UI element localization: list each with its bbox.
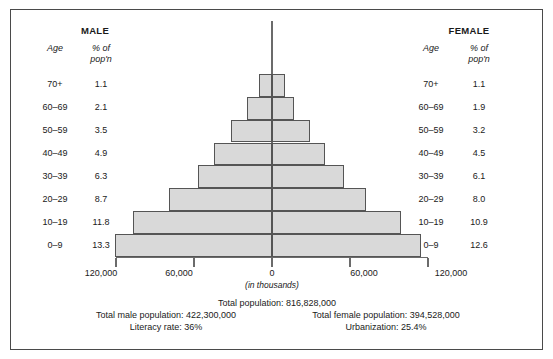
bar-female-60-69 bbox=[272, 97, 294, 120]
footer-total-female-population: Total female population: 394,528,000 bbox=[276, 310, 496, 320]
bar-female-0-9 bbox=[272, 234, 421, 257]
bar-female-30-39 bbox=[272, 165, 344, 188]
axis-tick-1 bbox=[193, 258, 194, 267]
bar-female-10-19 bbox=[272, 211, 401, 234]
footer-urbanization: Urbanization: 25.4% bbox=[276, 322, 496, 332]
bar-male-70+ bbox=[259, 74, 272, 97]
axis-tick-0 bbox=[115, 258, 116, 267]
bar-male-40-49 bbox=[214, 143, 272, 166]
axis-tick-4 bbox=[427, 258, 428, 267]
axis-tick-label-right: 60,000 bbox=[329, 268, 399, 278]
bar-male-50-59 bbox=[231, 120, 272, 143]
bar-female-40-49 bbox=[272, 143, 325, 166]
bar-female-70+ bbox=[272, 74, 285, 97]
bar-male-20-29 bbox=[169, 188, 272, 211]
bar-male-30-39 bbox=[198, 165, 272, 188]
bar-male-60-69 bbox=[247, 97, 272, 120]
axis-tick-label-far-left: 120,000 bbox=[66, 268, 136, 278]
footer-literacy-rate: Literacy rate: 36% bbox=[56, 322, 276, 332]
footer-total-population: Total population: 816,828,000 bbox=[167, 298, 387, 308]
axis-tick-label-left: 60,000 bbox=[144, 268, 214, 278]
axis-units-label: (in thousands) bbox=[232, 280, 312, 290]
axis-tick-3 bbox=[349, 258, 350, 267]
bar-female-50-59 bbox=[272, 120, 310, 143]
axis-tick-2 bbox=[271, 258, 272, 267]
bar-male-10-19 bbox=[133, 211, 272, 234]
footer-total-male-population: Total male population: 422,300,000 bbox=[56, 310, 276, 320]
bar-female-20-29 bbox=[272, 188, 366, 211]
bar-male-0-9 bbox=[115, 234, 272, 257]
axis-tick-label-center: 0 bbox=[237, 268, 307, 278]
axis-tick-label-far-right: 120,000 bbox=[416, 268, 486, 278]
population-pyramid-figure: MALE Age % of pop'n FEMALE Age % of pop'… bbox=[10, 9, 543, 350]
